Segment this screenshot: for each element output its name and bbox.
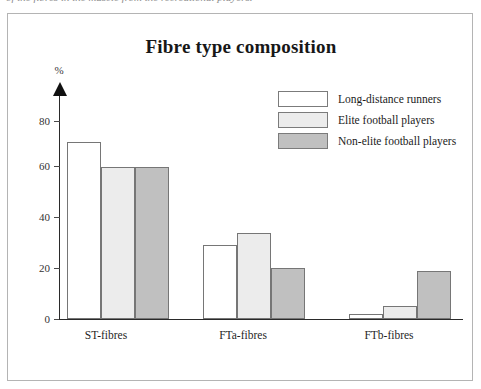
y-tick-label-40: 40 — [24, 212, 50, 222]
legend-swatch-long-distance-runners — [278, 91, 328, 107]
bar-fta-fibres-long-distance-runners — [203, 245, 237, 319]
bar-ftb-fibres-elite-football-players — [383, 306, 417, 319]
y-tick-label-80: 80 — [24, 116, 50, 126]
legend-swatch-non-elite-football-players — [278, 133, 328, 149]
y-axis-unit-label: % — [46, 64, 72, 76]
plot-area: % 80 60 40 20 0 ST-fibres FTa-fibres FTb… — [8, 14, 474, 382]
legend-label-long-distance-runners: Long-distance runners — [338, 91, 441, 107]
x-group-label-st-fibres: ST-fibres — [46, 329, 166, 341]
legend-label-elite-football-players: Elite football players — [338, 112, 434, 128]
bar-fta-fibres-elite-football-players — [237, 233, 271, 319]
legend-swatch-elite-football-players — [278, 112, 328, 128]
y-tick-label-60: 60 — [24, 161, 50, 171]
y-tick-label-20: 20 — [24, 263, 50, 273]
y-axis-arrow-icon — [53, 82, 67, 96]
x-axis-line — [59, 319, 463, 320]
cut-off-caption: of the fibres in the muscle from the rec… — [0, 0, 481, 10]
x-group-label-ftb-fibres: FTb-fibres — [329, 329, 449, 341]
bar-ftb-fibres-non-elite-football-players — [417, 271, 451, 319]
y-tick-mark-60 — [54, 166, 60, 167]
bar-st-fibres-elite-football-players — [101, 167, 135, 319]
legend-label-non-elite-football-players: Non-elite football players — [338, 133, 456, 149]
bar-fta-fibres-non-elite-football-players — [271, 268, 305, 319]
figure-frame: Fibre type composition % 80 60 40 20 0 S… — [7, 13, 473, 381]
legend-item: Elite football players — [278, 111, 468, 132]
y-tick-label-0: 0 — [24, 314, 50, 324]
bar-ftb-fibres-long-distance-runners — [349, 314, 383, 319]
y-tick-mark-40 — [54, 217, 60, 218]
y-axis-line — [59, 94, 60, 319]
bar-st-fibres-non-elite-football-players — [135, 167, 169, 319]
caption-text: of the fibres in the muscle from the rec… — [6, 0, 252, 3]
x-group-label-fta-fibres: FTa-fibres — [183, 329, 303, 341]
y-tick-mark-20 — [54, 268, 60, 269]
legend-item: Long-distance runners — [278, 90, 468, 111]
y-tick-mark-80 — [54, 121, 60, 122]
legend: Long-distance runners Elite football pla… — [278, 90, 468, 153]
legend-item: Non-elite football players — [278, 132, 468, 153]
bar-st-fibres-long-distance-runners — [67, 142, 101, 319]
